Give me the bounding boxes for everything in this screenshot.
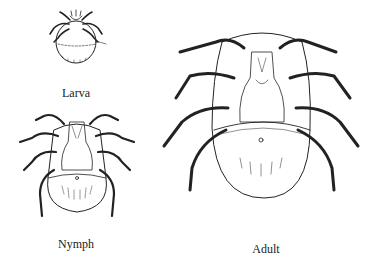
- nymph-illustration: [14, 108, 140, 228]
- adult-label: Adult: [240, 242, 292, 257]
- adult-illustration: [160, 18, 372, 202]
- larva-label: Larva: [50, 86, 102, 101]
- nymph-label: Nymph: [48, 237, 104, 252]
- larva-illustration: [40, 8, 112, 68]
- larva-tick-drawing: [40, 8, 112, 68]
- adult-tick-drawing: [160, 18, 372, 202]
- nymph-tick-drawing: [14, 108, 140, 228]
